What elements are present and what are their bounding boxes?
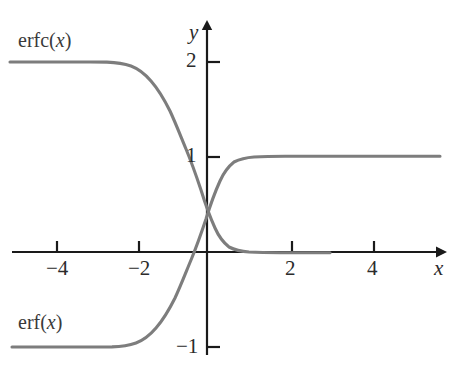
y-tick-label-neg1: −1 — [176, 336, 198, 357]
erf-curve-label: erf(x) — [18, 312, 62, 332]
y-axis-ticks — [206, 62, 220, 347]
y-axis — [202, 20, 212, 355]
y-axis-label: y — [189, 22, 198, 43]
plot-canvas — [0, 0, 454, 367]
erfc-curve-label: erfc(x) — [18, 30, 71, 50]
x-axis-label: x — [434, 258, 443, 279]
x-tick-label-neg2: −2 — [128, 258, 150, 279]
erf-erfc-plot-figure: erfc(x) erf(x) x y −4 −2 2 4 2 1 −1 — [0, 0, 454, 367]
x-tick-label-4: 4 — [367, 258, 378, 279]
x-tick-label-neg4: −4 — [46, 258, 68, 279]
y-tick-label-2: 2 — [186, 50, 197, 71]
y-tick-label-1: 1 — [186, 145, 197, 166]
x-tick-label-2: 2 — [285, 258, 296, 279]
